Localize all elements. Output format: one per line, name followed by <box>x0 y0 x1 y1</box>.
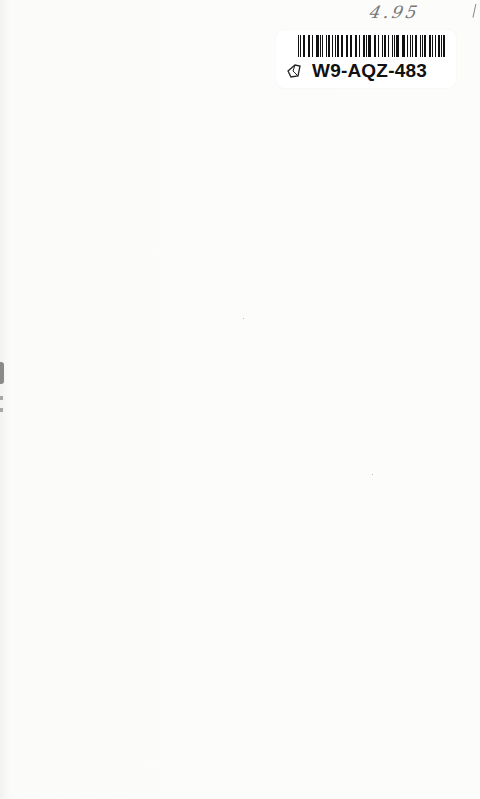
barcode-sticker: W9-AQZ-483 <box>276 30 456 88</box>
paper-speck <box>372 474 373 475</box>
sticker-code: W9-AQZ-483 <box>312 60 427 82</box>
page-edge-mark <box>0 396 3 400</box>
blank-page <box>0 0 480 799</box>
page-edge-mark <box>0 408 3 412</box>
paper-speck <box>243 318 244 319</box>
sticker-code-row: W9-AQZ-483 <box>286 60 427 82</box>
page-edge-mark <box>0 362 4 384</box>
barcode-icon <box>298 35 448 57</box>
tag-icon <box>286 63 302 79</box>
handwritten-price: 4.95 <box>368 2 422 22</box>
